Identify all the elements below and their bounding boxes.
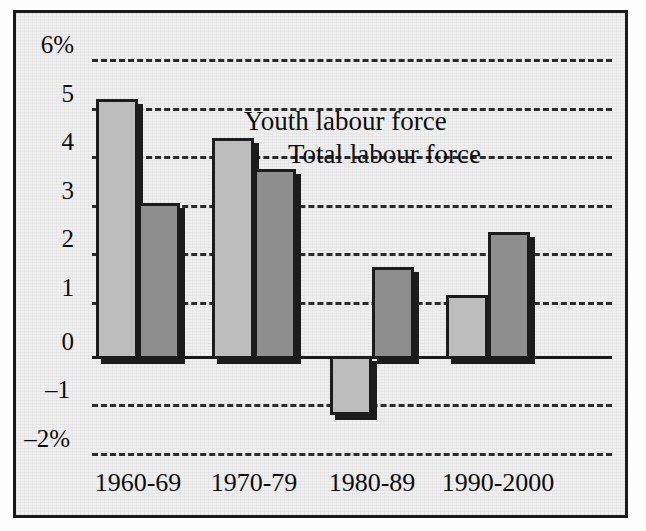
ytick-label-3: 3 — [12, 178, 74, 203]
legend-total-labour-force: Total labour force — [288, 140, 481, 169]
bar-total-1960-69 — [138, 203, 180, 359]
ytick-label-4: 4 — [12, 129, 74, 154]
bar-youth-1960-69 — [96, 99, 138, 359]
bar-youth-1970-79 — [212, 138, 254, 359]
bar-total-1990-2000 — [488, 232, 530, 359]
gridline-minus-2 — [92, 453, 612, 456]
ytick-label-2: 2 — [12, 226, 74, 251]
ytick-label-0: 0 — [12, 329, 74, 354]
ytick-label-minus-1: –1 — [8, 377, 70, 402]
bar-total-1970-79 — [254, 169, 296, 359]
legend-youth-labour-force: Youth labour force — [244, 107, 447, 136]
chart-frame: 6% 5 4 3 2 1 0 –1 –2% Youth labour force… — [13, 10, 628, 518]
xlabel-1990-2000: 1990-2000 — [418, 469, 578, 497]
bar-youth-1980-89 — [330, 356, 372, 415]
ytick-label-5: 5 — [12, 81, 74, 106]
bar-youth-1990-2000 — [446, 295, 488, 359]
figure: 6% 5 4 3 2 1 0 –1 –2% Youth labour force… — [0, 0, 646, 531]
ytick-label-6: 6% — [12, 32, 74, 57]
plot-area: 6% 5 4 3 2 1 0 –1 –2% Youth labour force… — [16, 13, 631, 521]
bar-total-1980-89 — [372, 267, 414, 359]
gridline-6 — [92, 59, 612, 62]
ytick-label-1: 1 — [12, 275, 74, 300]
ytick-label-minus-2: –2% — [8, 426, 70, 451]
